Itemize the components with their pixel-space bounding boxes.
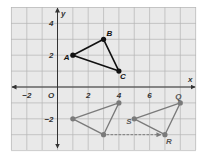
x-tick-label: 2 — [85, 91, 91, 100]
vertex-label-b: B — [107, 29, 113, 38]
vertex-point — [178, 100, 183, 105]
y-tick-label: 2 — [48, 51, 54, 60]
origin-label: O — [48, 91, 55, 100]
vertex-point — [116, 100, 121, 105]
vertex-point — [70, 116, 75, 121]
vertex-label-q: Q — [175, 92, 182, 101]
x-tick-label: −2 — [22, 91, 32, 100]
y-tick-label: −2 — [44, 115, 54, 124]
x-tick-label: 6 — [147, 91, 152, 100]
y-tick-label: 4 — [48, 19, 54, 28]
coordinate-plane: xyO−224642−2ABCQRS — [0, 0, 199, 159]
vertex-label-c: C — [120, 72, 126, 81]
vertex-point — [132, 116, 137, 121]
vertex-point — [101, 132, 106, 137]
vertex-label-a: A — [63, 53, 70, 62]
vertex-label-s: S — [126, 117, 132, 126]
x-axis-label: x — [187, 75, 193, 84]
y-axis-label: y — [60, 9, 66, 18]
vertex-point — [70, 53, 75, 58]
x-tick-label: 4 — [116, 91, 122, 100]
vertex-point — [101, 37, 106, 42]
vertex-label-r: R — [166, 137, 172, 146]
coordinate-plane-figure: xyO−224642−2ABCQRS — [0, 0, 199, 159]
